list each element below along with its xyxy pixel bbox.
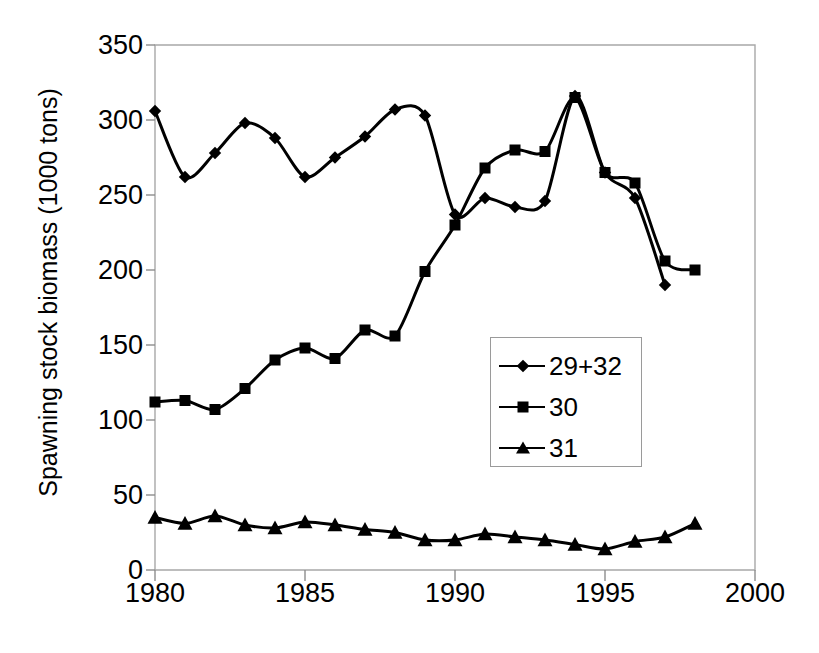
chart-figure: Spawning stock biomass (1000 tons) 350 3… — [0, 0, 819, 653]
legend-marker-square-icon — [497, 392, 549, 422]
series-31 — [148, 509, 703, 556]
axis-ticks — [146, 45, 755, 581]
legend-entry-2: 31 — [491, 426, 643, 469]
legend-label-2: 31 — [549, 435, 578, 461]
legend-entry-1: 30 — [491, 385, 643, 428]
legend-marker-diamond-icon — [497, 351, 549, 381]
legend-label-0: 29+32 — [549, 353, 622, 379]
chart-legend: 29+32 30 31 — [490, 337, 642, 467]
series-29-32 — [149, 90, 671, 291]
legend-label-1: 30 — [549, 394, 578, 420]
plot-area — [0, 0, 819, 653]
legend-marker-triangle-icon — [497, 433, 549, 463]
legend-entry-0: 29+32 — [491, 344, 643, 387]
